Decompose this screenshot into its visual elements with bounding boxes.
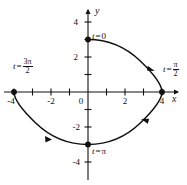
parametric-curve-figure: x y -4 -2 2 4 0 4 2 -2 -4 t=0 t=π [0,0,187,185]
y-axis [85,10,92,180]
annotation-tpi-value: π [102,146,107,156]
annotation-t3pi2-denominator: 2 [23,66,33,75]
annotation-t-equals-3pi-over-2: t=3π2 [13,58,33,75]
y-tick-label--2: -2 [73,122,81,132]
point-t-pi [85,142,91,148]
point-t-pi-2 [159,89,165,95]
point-t-0 [85,37,91,43]
direction-arrow-upper-right [147,65,155,72]
annotation-t-equals-pi-over-2: t=π2 [163,61,179,78]
annotation-tpi-equals: = [95,146,102,156]
y-tick-label-4: 4 [74,17,79,27]
plot-canvas: x y -4 -2 2 4 0 4 2 -2 -4 [0,0,187,185]
annotation-thalfpi-denominator: 2 [173,69,179,78]
annotation-t-equals-0: t=0 [92,32,106,41]
point-t-3pi-2 [11,89,17,95]
y-tick-label--4: -4 [73,157,81,167]
annotation-t3pi2-equals: = [16,61,23,71]
annotation-t-equals-pi: t=π [92,147,106,156]
y-tick-label-2: 2 [74,52,79,62]
direction-arrow-lower-left [45,136,52,143]
x-tick-label--2: -2 [47,96,55,106]
x-tick-label-2: 2 [123,96,128,106]
annotation-t0-value: 0 [102,31,107,41]
annotation-t3pi2-fraction: 3π2 [23,58,33,75]
annotation-t0-equals: = [95,31,102,41]
annotation-thalfpi-numerator: π [173,61,179,69]
annotation-thalfpi-equals: = [166,64,173,74]
annotation-t3pi2-numerator: 3π [23,58,33,66]
origin-label: 0 [79,96,84,106]
annotation-thalfpi-fraction: π2 [173,61,179,78]
x-axis-label: x [171,93,177,104]
x-axis [4,89,178,96]
y-axis-label: y [94,5,100,16]
x-tick-label--4: -4 [7,96,15,106]
direction-arrows [45,65,155,142]
